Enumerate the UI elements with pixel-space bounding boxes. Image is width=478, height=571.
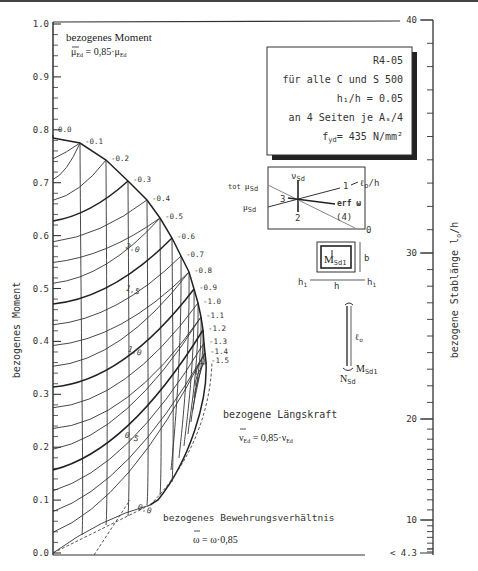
y-tick-label: 0.7 — [33, 178, 49, 188]
title-line3: an 4 Seiten je Aₛ/4 — [289, 112, 403, 123]
nu-curve — [106, 160, 107, 525]
omega-curve — [53, 160, 106, 200]
nu-curve-label: -0.1 — [85, 137, 103, 146]
svg-text:h: h — [334, 281, 339, 291]
outer-envelope — [53, 138, 206, 505]
svg-text:μSd: μSd — [243, 202, 256, 214]
svg-text:b: b — [364, 253, 369, 263]
y-tick-label: 0.8 — [33, 125, 49, 135]
top-frame-line — [53, 21, 400, 22]
omega-curve-label: 1.5 — [124, 283, 141, 296]
nu-curve-label: -0.9 — [199, 283, 217, 292]
svg-text:ℓo: ℓo — [355, 332, 363, 343]
y-tick-label: 0.1 — [33, 495, 49, 505]
y-tick-label: 0.9 — [33, 72, 49, 82]
right-tick-label: 40 — [406, 15, 417, 25]
svg-text:1: 1 — [343, 181, 348, 191]
nu-curve-label: -1.2 — [208, 324, 226, 333]
left-axis-ticks: 0.00.10.20.30.40.50.60.70.80.91.0 — [33, 19, 61, 558]
svg-text:νSd: νSd — [291, 171, 305, 183]
y-tick-label: 0.2 — [33, 442, 49, 452]
nomogram-key-diagram: νSd 1 2 3 (4) 0 erf ω tot μSd μSd ℓo/h — [228, 167, 379, 235]
nu-curve-label: -0.8 — [194, 266, 213, 275]
y-tick-label: 0.3 — [33, 389, 49, 399]
svg-text:NSd: NSd — [340, 373, 356, 386]
y-axis-label: bezogenes Moment — [11, 282, 22, 378]
omega-formula: ω = ω·0,85 — [193, 534, 238, 545]
svg-text:h1: h1 — [367, 277, 376, 288]
nu-curve-label: -0.4 — [152, 194, 171, 203]
nu-curve — [147, 200, 148, 505]
cross-section-diagram: MSd1 b h h1 h1 — [298, 242, 376, 291]
title-line1: für alle C und S 500 — [283, 74, 403, 85]
nu-formula: νEd = 0,85·νEd — [239, 432, 293, 444]
title-line2: h₁/h = 0.05 — [337, 93, 403, 104]
nu-curve-label: -1.0 — [203, 297, 222, 306]
y-tick-label: 0.6 — [33, 231, 49, 241]
y-tick-label: 0.5 — [33, 284, 49, 294]
svg-text:MSd1: MSd1 — [324, 253, 346, 267]
moment-formula: μEd = 0,85·μEd — [71, 46, 127, 58]
right-tick-label: < 4.3 — [390, 548, 417, 558]
nu-title: bezogene Längskraft — [223, 409, 337, 420]
svg-text:ℓo/h: ℓo/h — [360, 178, 379, 190]
omega-curve — [53, 303, 198, 408]
svg-text:tot μSd: tot μSd — [228, 181, 258, 193]
moment-title: bezogenes Moment — [66, 31, 152, 43]
omega-curve-label: 2.0 — [124, 241, 141, 254]
omega-curve — [53, 181, 128, 221]
omega-curve — [53, 256, 181, 325]
nu-curve-label: -0.2 — [111, 154, 129, 163]
nu-curve-label: 0.0 — [58, 125, 72, 134]
interaction-chart: 0.00.10.20.30.40.50.60.70.80.91.0 403020… — [0, 0, 478, 571]
right-tick-label: 30 — [406, 248, 417, 258]
limit-dashed-line — [53, 362, 212, 555]
nu-curve-label: -1.3 — [209, 337, 227, 346]
right-tick-label: 20 — [406, 414, 417, 424]
chart-id: R4-05 — [373, 55, 403, 66]
nu-curve-label: -0.7 — [186, 250, 204, 259]
right-axis-label: bezogene Stablänge lo/h — [449, 222, 463, 359]
nu-curve-label: -1.4 — [210, 347, 229, 356]
omega-title: bezogenes Bewehrungsverhältnis — [163, 512, 335, 523]
omega-curve — [53, 238, 172, 304]
svg-text:erf ω: erf ω — [337, 199, 361, 208]
y-tick-label: 0.4 — [33, 336, 49, 346]
svg-text:2: 2 — [295, 213, 300, 223]
column-diagram: ℓo MSd1 NSd — [340, 303, 378, 386]
nu-curve-label: -0.6 — [177, 232, 196, 241]
nu-curve-label: -1.1 — [206, 311, 224, 320]
nu-curve-label: -0.5 — [165, 212, 183, 221]
omega-curve — [53, 272, 189, 346]
nu-curve — [160, 218, 161, 495]
nu-curve-label: -1.5 — [211, 356, 229, 365]
svg-text:(4): (4) — [336, 212, 352, 222]
svg-text:MSd1: MSd1 — [356, 363, 378, 376]
nu-curve — [80, 143, 83, 535]
y-tick-label: 0.0 — [33, 548, 49, 558]
right-tick-label: 10 — [406, 515, 417, 525]
svg-text:h1: h1 — [298, 277, 307, 288]
nu-curve-label: -0.3 — [133, 175, 151, 184]
svg-text:3: 3 — [280, 194, 285, 204]
svg-text:0: 0 — [366, 225, 371, 235]
y-tick-label: 1.0 — [33, 19, 49, 29]
